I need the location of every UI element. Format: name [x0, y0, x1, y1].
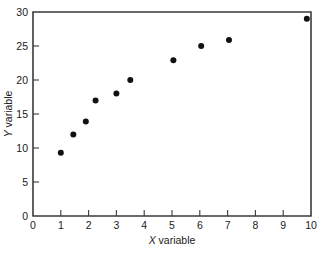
- plot-canvas: 012345678910 051015202530 X variable Y v…: [0, 0, 322, 253]
- x-tick-label: 5: [169, 219, 175, 231]
- x-tick-label: 1: [58, 219, 64, 231]
- chart-background: [0, 0, 322, 253]
- data-point: [93, 97, 99, 103]
- data-point: [127, 77, 133, 83]
- y-tick-label: 5: [22, 176, 28, 188]
- x-tick-label: 6: [197, 219, 203, 231]
- x-tick-label: 8: [252, 219, 258, 231]
- y-tick-label: 15: [16, 108, 28, 120]
- y-axis-title: Y variable: [2, 90, 14, 137]
- y-tick-label: 10: [16, 142, 28, 154]
- x-tick-label: 4: [141, 219, 147, 231]
- data-point: [83, 118, 89, 124]
- scatter-chart: 012345678910 051015202530 X variable Y v…: [0, 0, 322, 253]
- x-tick-label: 7: [225, 219, 231, 231]
- y-tick-label: 30: [16, 6, 28, 18]
- data-point: [170, 57, 176, 63]
- data-point: [304, 16, 310, 22]
- data-point: [226, 37, 232, 43]
- y-axis-title-word: variable: [2, 90, 14, 130]
- y-tick-label: 25: [16, 40, 28, 52]
- data-point: [58, 150, 64, 156]
- x-tick-label: 3: [113, 219, 119, 231]
- x-axis-title-word: variable: [156, 234, 196, 246]
- data-point: [113, 91, 119, 97]
- x-tick-label: 9: [280, 219, 286, 231]
- x-tick-label: 0: [30, 219, 36, 231]
- x-axis-title: X variable: [148, 234, 196, 246]
- x-tick-label: 2: [86, 219, 92, 231]
- y-tick-label: 20: [16, 74, 28, 86]
- data-point: [198, 43, 204, 49]
- x-tick-label: 10: [305, 219, 317, 231]
- y-tick-label: 0: [22, 210, 28, 222]
- data-point: [70, 131, 76, 137]
